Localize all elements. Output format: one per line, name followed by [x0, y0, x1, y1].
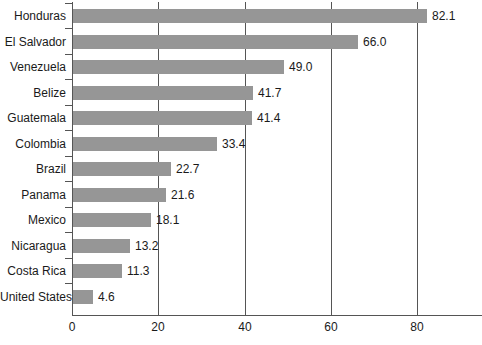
category-label-colombia: Colombia	[0, 137, 66, 151]
bar-belize	[73, 86, 253, 100]
bar-chart: Honduras El Salvador Venezuela Belize Gu…	[0, 0, 482, 345]
category-label-costa-rica: Costa Rica	[0, 264, 66, 278]
value-label-venezuela: 49.0	[289, 60, 312, 74]
value-label-guatemala: 41.4	[257, 111, 280, 125]
x-axis-tick-40	[245, 309, 246, 316]
y-axis-tick	[65, 181, 72, 182]
gridline-80	[417, 2, 418, 315]
y-axis-tick	[65, 156, 72, 157]
category-label-mexico: Mexico	[0, 213, 66, 227]
category-label-venezuela: Venezuela	[0, 60, 66, 74]
category-label-honduras: Honduras	[0, 9, 66, 23]
category-label-panama: Panama	[0, 188, 66, 202]
y-axis-tick	[65, 3, 72, 4]
y-axis-tick	[65, 79, 72, 80]
bar-united-states	[73, 290, 93, 304]
value-label-costa-rica: 11.3	[127, 264, 149, 278]
value-label-honduras: 82.1	[432, 9, 455, 23]
x-axis-label-40: 40	[215, 320, 275, 334]
bar-nicaragua	[73, 239, 130, 253]
y-axis-tick	[65, 283, 72, 284]
x-axis-label-20: 20	[128, 320, 188, 334]
category-label-guatemala: Guatemala	[0, 111, 66, 125]
y-axis-tick	[65, 54, 72, 55]
value-label-united-states: 4.6	[98, 290, 115, 304]
bar-mexico	[73, 213, 151, 227]
value-label-mexico: 18.1	[156, 213, 179, 227]
x-axis-label-80: 80	[387, 320, 447, 334]
category-label-nicaragua: Nicaragua	[0, 239, 66, 253]
x-axis-tick-0	[72, 309, 73, 316]
category-label-united-states: United States	[0, 290, 66, 304]
x-axis-tick-60	[331, 309, 332, 316]
bar-panama	[73, 188, 166, 202]
value-label-panama: 21.6	[171, 188, 194, 202]
y-axis-tick	[65, 232, 72, 233]
y-axis-tick	[65, 207, 72, 208]
value-label-el-salvador: 66.0	[363, 35, 386, 49]
y-axis-tick	[65, 28, 72, 29]
value-label-nicaragua: 13.2	[135, 239, 158, 253]
value-label-brazil: 22.7	[176, 162, 199, 176]
category-label-el-salvador: El Salvador	[0, 35, 66, 49]
category-label-belize: Belize	[0, 86, 66, 100]
x-axis-tick-20	[158, 309, 159, 316]
value-label-colombia: 33.4	[222, 137, 245, 151]
y-axis-tick	[65, 258, 72, 259]
x-axis-tick-80	[417, 309, 418, 316]
bar-colombia	[73, 137, 217, 151]
bar-el-salvador	[73, 35, 358, 49]
x-axis-line	[72, 315, 482, 316]
y-axis-tick	[65, 105, 72, 106]
plot-area: Honduras El Salvador Venezuela Belize Gu…	[0, 0, 482, 345]
y-axis-tick	[65, 130, 72, 131]
category-label-brazil: Brazil	[0, 162, 66, 176]
value-label-belize: 41.7	[258, 86, 281, 100]
bar-costa-rica	[73, 264, 122, 278]
bar-venezuela	[73, 60, 284, 74]
x-axis-label-60: 60	[301, 320, 361, 334]
bar-brazil	[73, 162, 171, 176]
bar-guatemala	[73, 111, 252, 125]
x-axis-label-0: 0	[42, 320, 102, 334]
bar-honduras	[73, 9, 427, 23]
